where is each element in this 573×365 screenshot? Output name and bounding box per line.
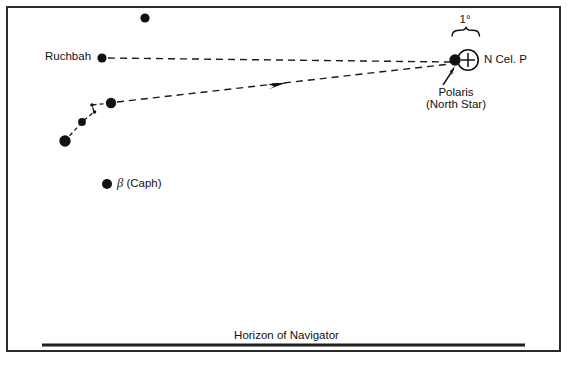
label-beta-caph-greek: β	[117, 176, 123, 190]
star-faint-upper	[90, 103, 94, 107]
sight-line-arrowhead	[268, 83, 287, 90]
astronomy-diagram: Ruchbah β (Caph) N Cel. P 1° Polaris (No…	[0, 0, 573, 365]
sight-line-ruchbah	[108, 58, 450, 62]
label-beta-caph-name: (Caph)	[126, 177, 161, 189]
star-gamma-cas	[106, 98, 116, 108]
label-north-celestial-pole: N Cel. P	[484, 53, 527, 65]
constellation-chain	[65, 103, 111, 141]
star-ruchbah	[97, 53, 106, 62]
label-polaris: Polaris (North Star)	[406, 86, 506, 110]
star-beta-caph	[102, 179, 112, 189]
label-polaris-line2: (North Star)	[406, 98, 506, 110]
label-ruchbah: Ruchbah	[45, 50, 91, 62]
star-faint-lower	[93, 110, 97, 114]
star-segin	[140, 13, 149, 22]
label-beta-caph: β (Caph)	[117, 177, 162, 190]
angle-brace-icon	[452, 27, 480, 36]
label-polaris-line1: Polaris	[406, 86, 506, 98]
label-horizon-of-navigator: Horizon of Navigator	[0, 329, 573, 341]
label-one-degree: 1°	[452, 13, 478, 25]
star-chain-end	[59, 135, 70, 146]
star-shedar	[78, 118, 86, 126]
